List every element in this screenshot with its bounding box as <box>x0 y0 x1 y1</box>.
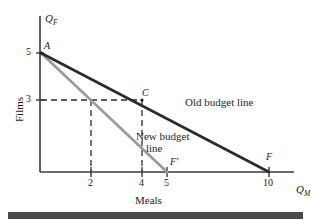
y-axis-variable-label: QF <box>34 1 58 38</box>
point-label-F: F <box>266 152 272 163</box>
budget-line-figure: QF QM 5 3 2 4 5 10 A C F F' Old budget l… <box>0 0 311 220</box>
y-tick-label-3: 3 <box>26 94 31 105</box>
new-budget-line-annotation-line1: New budget <box>136 131 189 143</box>
footer-bar <box>8 212 303 219</box>
x-tick-label-2: 2 <box>88 178 93 189</box>
new-budget-line-annotation-line2: line <box>146 143 163 155</box>
x-axis-variable-letter: Q <box>296 183 304 195</box>
point-marker-C <box>140 98 143 101</box>
old-budget-line-annotation: Old budget line <box>185 97 253 109</box>
x-tick-label-5: 5 <box>164 178 169 189</box>
x-axis-name-label: Meals <box>135 195 162 207</box>
x-tick-label-4: 4 <box>139 178 144 189</box>
y-tick-label-5: 5 <box>26 47 31 58</box>
point-marker-A <box>39 51 42 54</box>
x-tick-label-10: 10 <box>263 178 273 189</box>
x-axis-variable-label: QM <box>285 172 310 209</box>
y-axis-variable-letter: Q <box>45 12 53 24</box>
point-label-C: C <box>142 88 149 99</box>
x-axis-variable-subscript: M <box>304 189 310 198</box>
y-axis-name-label: Films <box>14 97 26 122</box>
y-axis-variable-subscript: F <box>53 18 58 27</box>
point-label-F-prime: F' <box>170 157 178 168</box>
point-label-A: A <box>44 41 50 52</box>
